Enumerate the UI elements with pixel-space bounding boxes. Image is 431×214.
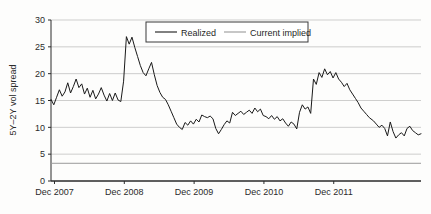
x-tick-label: Dec 2008 bbox=[105, 187, 144, 197]
y-tick-label: 10 bbox=[35, 123, 45, 133]
y-tick-label: 0 bbox=[40, 176, 45, 186]
y-tick-label: 30 bbox=[35, 15, 45, 25]
legend-label-realized: Realized bbox=[181, 28, 216, 38]
y-tick-label: 15 bbox=[35, 96, 45, 106]
chart-container: 051015202530 Dec 2007Dec 2008Dec 2009Dec… bbox=[0, 0, 431, 214]
y-tick-label: 25 bbox=[35, 42, 45, 52]
y-tick-label: 5 bbox=[40, 149, 45, 159]
y-axis-title: 5Y–2Y vol spread bbox=[8, 65, 18, 136]
legend-label-current-implied: Current implied bbox=[250, 28, 311, 38]
chart-legend: Realized Current implied bbox=[146, 22, 311, 42]
x-tick-label: Dec 2007 bbox=[35, 187, 74, 197]
x-tick-label: Dec 2010 bbox=[245, 187, 284, 197]
x-tick-label: Dec 2009 bbox=[175, 187, 214, 197]
y-tick-label: 20 bbox=[35, 69, 45, 79]
x-tick-label: Dec 2011 bbox=[315, 187, 353, 197]
vol-spread-line-chart: 051015202530 Dec 2007Dec 2008Dec 2009Dec… bbox=[0, 0, 431, 214]
